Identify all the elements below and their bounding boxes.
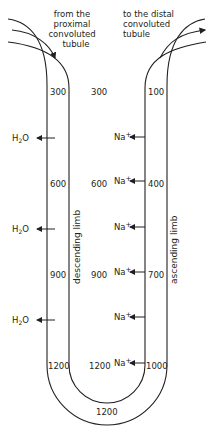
- water-label: H2O: [12, 225, 29, 235]
- water-tail: O: [22, 224, 29, 234]
- sodium-sup: +: [126, 357, 132, 365]
- sodium-label: Na+: [114, 177, 131, 186]
- outflow-caption-line: convoluted: [123, 19, 174, 29]
- interstitial-value: 900: [91, 271, 107, 280]
- sodium-base: Na: [114, 222, 126, 232]
- ascending-value: 700: [148, 271, 164, 280]
- interstitial-value: 1200: [89, 362, 111, 371]
- outflow-caption: to the distal convoluted tubule: [123, 9, 174, 39]
- descending-value: 600: [50, 180, 66, 189]
- ascending-value: 1000: [146, 362, 168, 371]
- inflow-caption-line: from the proximal: [34, 9, 110, 29]
- descending-limb-label: descending limb: [72, 210, 82, 284]
- sodium-sup: +: [126, 221, 132, 229]
- sodium-label: Na+: [114, 313, 131, 322]
- sodium-label: Na+: [114, 359, 131, 368]
- water-label: H2O: [12, 134, 29, 144]
- sodium-sup: +: [126, 311, 132, 319]
- descending-value: 1200: [48, 362, 70, 371]
- water-tail: O: [22, 133, 29, 143]
- sodium-base: Na: [114, 312, 126, 322]
- sodium-base: Na: [114, 358, 126, 368]
- sodium-label: Na+: [114, 268, 131, 277]
- ascending-value: 400: [148, 180, 164, 189]
- sodium-base: Na: [114, 132, 126, 142]
- sodium-sup: +: [126, 131, 132, 139]
- water-label: H2O: [12, 316, 29, 326]
- sodium-sup: +: [126, 175, 132, 183]
- sodium-base: Na: [114, 176, 126, 186]
- outflow-caption-line: to the distal: [123, 9, 174, 19]
- interstitial-value: 600: [91, 180, 107, 189]
- outflow-caption-line: tubule: [123, 29, 174, 39]
- inflow-caption: from the proximal convoluted tubule: [34, 9, 110, 49]
- inflow-caption-line: tubule: [34, 39, 110, 49]
- sodium-label: Na+: [114, 133, 131, 142]
- ascending-value: 100: [148, 88, 164, 97]
- ascending-limb-label: ascending limb: [169, 216, 179, 284]
- bottom-value: 1200: [96, 408, 118, 417]
- descending-value: 300: [50, 88, 66, 97]
- sodium-base: Na: [114, 267, 126, 277]
- sodium-sup: +: [126, 266, 132, 274]
- water-tail: O: [22, 315, 29, 325]
- descending-value: 900: [50, 271, 66, 280]
- sodium-label: Na+: [114, 223, 131, 232]
- inflow-caption-line: convoluted: [34, 29, 110, 39]
- interstitial-value: 300: [91, 88, 107, 97]
